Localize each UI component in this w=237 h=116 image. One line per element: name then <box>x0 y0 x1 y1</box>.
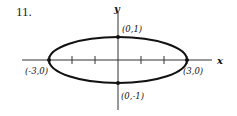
point-marker <box>185 58 189 62</box>
x-axis-label: x <box>216 55 224 66</box>
ellipse-figure: 11. x y (0,1)(0,-1)(-3,0)(3,0) <box>0 0 237 116</box>
y-axis-label: y <box>113 3 121 14</box>
point-marker <box>116 81 120 85</box>
point-marker <box>116 35 120 39</box>
point-label: (0,1) <box>122 24 142 34</box>
point-label: (0,-1) <box>121 91 144 101</box>
point-label: (-3,0) <box>25 66 48 76</box>
point-marker <box>47 58 51 62</box>
point-label: (3,0) <box>183 66 203 76</box>
problem-number: 11. <box>16 4 32 19</box>
